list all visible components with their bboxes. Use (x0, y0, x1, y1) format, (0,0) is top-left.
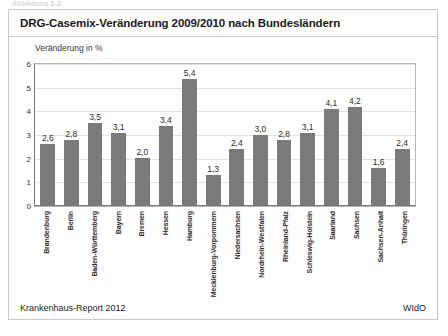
bar-slot: 2,0 (131, 65, 155, 205)
bar-slot: 3,5 (83, 65, 107, 205)
bar-slot: 2,8 (272, 65, 296, 205)
x-label-slot: Hamburg (177, 209, 201, 305)
bar-value-label: 4,1 (325, 98, 337, 108)
bar[interactable]: 3,5 (88, 123, 103, 205)
x-label-slot: Berlin (58, 209, 82, 305)
gridline: 0 (35, 206, 415, 207)
bar[interactable]: 3,4 (159, 126, 174, 205)
bar-series: 2,62,83,53,12,03,45,41,32,43,02,83,14,14… (36, 65, 414, 205)
x-axis-category-label: Bremen (138, 211, 145, 236)
bar[interactable]: 2,0 (135, 158, 150, 205)
x-axis-category-label: Schleswig-Holstein (305, 211, 312, 273)
y-axis-tick: 1 (27, 178, 31, 187)
bar-value-label: 3,1 (302, 122, 314, 132)
bar[interactable]: 2,8 (277, 140, 292, 205)
bar-slot: 4,2 (343, 65, 367, 205)
x-axis-category-label: Niedersachsen (233, 211, 240, 260)
x-axis-category-label: Nordrhein-Westfalen (257, 211, 264, 278)
bar-slot: 3,1 (296, 65, 320, 205)
bar-value-label: 1,6 (373, 157, 385, 167)
plot-area: 6543210 2,62,83,53,12,03,45,41,32,43,02,… (34, 63, 416, 207)
x-label-slot: Saarland (321, 209, 345, 305)
bar[interactable]: 3,0 (253, 135, 268, 205)
figure-caption-stub: Abbildung 1-2 (12, 0, 61, 7)
y-axis-tick: 3 (27, 131, 31, 140)
x-label-slot: Bremen (130, 209, 154, 305)
x-label-slot: Nordrhein-Westfalen (249, 209, 273, 305)
x-axis-line (35, 205, 415, 206)
bar[interactable]: 2,8 (64, 140, 79, 205)
x-label-slot: Schleswig-Holstein (297, 209, 321, 305)
bar-slot: 4,1 (320, 65, 344, 205)
x-axis-category-label: Bayern (114, 211, 121, 234)
bar-value-label: 3,1 (113, 122, 125, 132)
bar[interactable]: 2,4 (229, 149, 244, 205)
bar-slot: 1,6 (367, 65, 391, 205)
bar-slot: 3,0 (249, 65, 273, 205)
x-label-slot: Sachsen-Anhalt (368, 209, 392, 305)
x-label-slot: Hessen (153, 209, 177, 305)
bar-slot: 3,4 (154, 65, 178, 205)
x-axis-category-label: Hessen (162, 211, 169, 235)
bar-value-label: 3,0 (255, 124, 267, 134)
bar[interactable]: 2,4 (395, 149, 410, 205)
bar[interactable]: 1,3 (206, 175, 221, 205)
bar-value-label: 1,3 (207, 164, 219, 174)
bar[interactable]: 5,4 (182, 79, 197, 205)
x-label-slot: Mecklenburg-Vorpommern (201, 209, 225, 305)
x-axis-category-label: Brandenburg (42, 211, 49, 254)
y-axis-title: Veränderung in % (35, 43, 103, 53)
bar-value-label: 2,8 (66, 129, 78, 139)
bar[interactable]: 4,2 (348, 107, 363, 205)
bar-slot: 5,4 (178, 65, 202, 205)
figure-box: DRG-Casemix-Veränderung 2009/2010 nach B… (8, 9, 438, 320)
bar-value-label: 2,4 (231, 138, 243, 148)
x-axis-category-label: Rheinland-Pfalz (281, 211, 288, 262)
x-axis-labels: BrandenburgBerlinBaden-WürttembergBayern… (34, 209, 416, 305)
x-axis-category-label: Hamburg (186, 211, 193, 241)
bar-value-label: 3,5 (89, 112, 101, 122)
x-axis-category-label: Baden-Württemberg (90, 211, 97, 277)
x-label-slot: Baden-Württemberg (82, 209, 106, 305)
bar-value-label: 4,2 (349, 96, 361, 106)
y-axis-tick: 4 (27, 107, 31, 116)
x-axis-category-label: Berlin (66, 211, 73, 230)
x-axis-category-label: Saarland (329, 211, 336, 240)
bar[interactable]: 4,1 (324, 109, 339, 205)
x-label-slot: Rheinland-Pfalz (273, 209, 297, 305)
bar-value-label: 2,8 (278, 129, 290, 139)
bar[interactable]: 2,6 (40, 144, 55, 205)
bar-slot: 2,6 (36, 65, 60, 205)
y-axis-tick: 2 (27, 154, 31, 163)
source-left: Krankenhaus-Report 2012 (20, 303, 126, 313)
bar-value-label: 2,0 (136, 147, 148, 157)
x-axis-category-label: Sachsen (353, 211, 360, 239)
y-axis-tick: 5 (27, 83, 31, 92)
bar-value-label: 2,4 (396, 138, 408, 148)
bar-slot: 2,8 (60, 65, 84, 205)
x-axis-category-label: Sachsen-Anhalt (377, 211, 384, 263)
figure-title: DRG-Casemix-Veränderung 2009/2010 nach B… (9, 10, 437, 37)
x-axis-category-label: Mecklenburg-Vorpommern (210, 211, 217, 297)
bar-value-label: 3,4 (160, 115, 172, 125)
x-label-slot: Sachsen (344, 209, 368, 305)
y-axis-tick: 0 (27, 202, 31, 211)
bar[interactable]: 1,6 (371, 168, 386, 205)
bar-value-label: 5,4 (184, 68, 196, 78)
x-axis-category-label: Thüringen (401, 211, 408, 244)
bar-value-label: 2,6 (42, 133, 54, 143)
x-label-slot: Niedersachsen (225, 209, 249, 305)
source-right: WIdO (403, 303, 426, 313)
bar-slot: 3,1 (107, 65, 131, 205)
bar[interactable]: 3,1 (300, 133, 315, 205)
y-axis-tick: 6 (27, 60, 31, 69)
bar-slot: 2,4 (225, 65, 249, 205)
x-label-slot: Bayern (106, 209, 130, 305)
x-label-slot: Brandenburg (34, 209, 58, 305)
x-label-slot: Thüringen (392, 209, 416, 305)
bar[interactable]: 3,1 (111, 133, 126, 205)
bar-slot: 2,4 (390, 65, 414, 205)
bar-slot: 1,3 (201, 65, 225, 205)
